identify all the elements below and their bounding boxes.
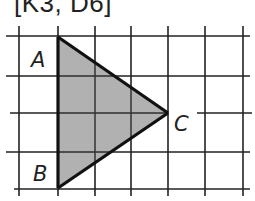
vertex-label-c: C xyxy=(174,112,189,136)
vertex-label-b: B xyxy=(33,162,47,186)
vertex-label-a: A xyxy=(29,48,45,72)
grid-diagram: A B C xyxy=(0,0,255,201)
